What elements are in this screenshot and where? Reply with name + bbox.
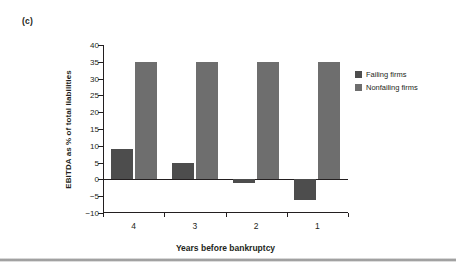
figure-panel-c: (c) EBITDA as % of total liabilities 403… [0, 0, 456, 276]
footer-rule [0, 258, 456, 262]
y-tick-label: 35 [90, 57, 99, 66]
y-axis-title-text: EBITDA as % of total liabilities [64, 70, 73, 188]
x-tick-mark [226, 213, 227, 217]
x-tick-mark [103, 213, 104, 217]
y-tick-label: 15 [90, 125, 99, 134]
x-tick-label: 1 [315, 221, 320, 231]
legend-label: Nonfailing firms [366, 83, 418, 92]
legend-item: Nonfailing firms [355, 83, 418, 92]
legend-label: Failing firms [366, 70, 406, 79]
y-tick-label: 30 [90, 74, 99, 83]
bar [257, 62, 279, 180]
y-tick-label: 5 [95, 158, 99, 167]
bar [294, 179, 316, 199]
y-tick-label: 25 [90, 91, 99, 100]
y-axis-title: EBITDA as % of total liabilities [62, 45, 74, 213]
bar [318, 62, 340, 180]
bar [135, 62, 157, 180]
y-tick-label: −10 [85, 209, 99, 218]
y-tick-label: 20 [90, 108, 99, 117]
x-tick-label: 2 [254, 221, 259, 231]
chart-legend: Failing firmsNonfailing firms [355, 70, 418, 92]
x-axis-title: Years before bankruptcy [103, 243, 348, 253]
plot-area: 4035302520151050−5−10 4321 [103, 45, 348, 213]
bar [172, 163, 194, 180]
legend-swatch-icon [355, 71, 362, 78]
y-tick-label: 40 [90, 41, 99, 50]
y-tick-label: −5 [90, 192, 99, 201]
legend-swatch-icon [355, 84, 362, 91]
bar [196, 62, 218, 180]
y-tick-label: 0 [95, 175, 99, 184]
x-tick-mark [348, 213, 349, 217]
legend-item: Failing firms [355, 70, 418, 79]
y-axis-line [103, 45, 104, 213]
bar [233, 179, 255, 182]
bar [111, 149, 133, 179]
x-tick-mark [164, 213, 165, 217]
x-tick-mark [287, 213, 288, 217]
panel-label: (c) [22, 16, 33, 26]
x-tick-label: 4 [131, 221, 136, 231]
y-tick-label: 10 [90, 141, 99, 150]
x-tick-label: 3 [193, 221, 198, 231]
